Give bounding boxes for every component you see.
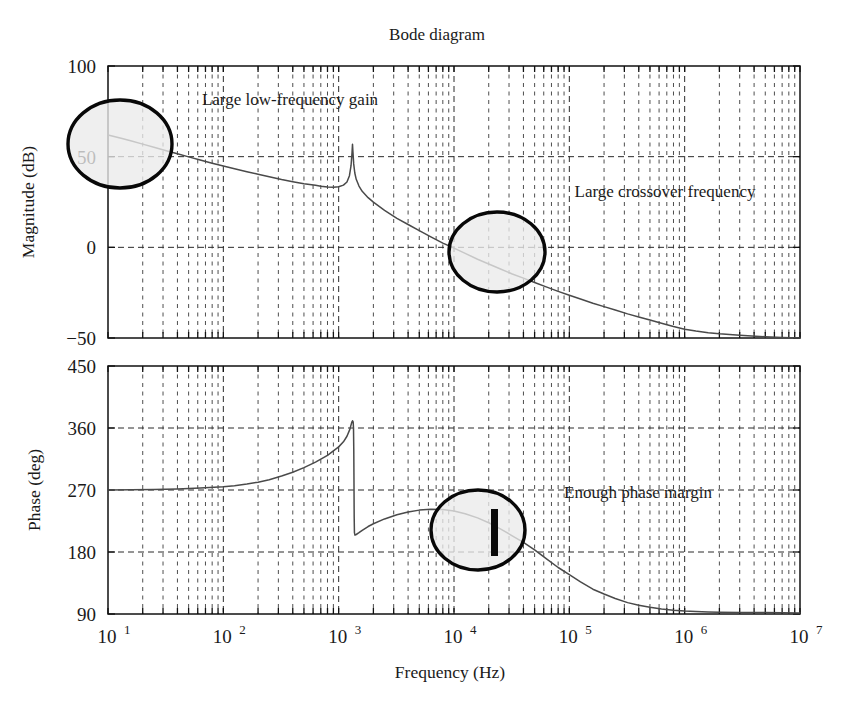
chart-title: Bode diagram [389,25,485,44]
frequency-tick-exponent: 1 [124,622,131,637]
bode-diagram-figure: Bode diagram −50050100 Magnitude (dB) La… [0,0,855,710]
phase-y-tick-180: 180 [68,542,97,563]
magnitude-y-tick-100: 100 [68,56,97,77]
phase-margin-bar [491,509,498,556]
large-low-frequency-gain: Large low-frequency gain [202,90,379,109]
phase-y-tick-90: 90 [77,604,96,625]
frequency-tick-base: 10 [98,626,117,647]
phase-y-tick-270: 270 [68,480,97,501]
large-crossover-frequency: Large crossover frequency [575,182,756,201]
frequency-tick-exponent: 6 [701,622,708,637]
phase-y-tick-450: 450 [68,356,97,377]
phase-annotations: Enough phase margin [564,483,712,502]
frequency-tick-exponent: 5 [585,622,592,637]
phase-axis-label: Phase (deg) [24,449,44,531]
magnitude-y-tick-0: 0 [87,237,97,258]
phase-margin-callout [431,490,525,570]
phase-y-tick-360: 360 [68,418,97,439]
frequency-tick-base: 10 [790,626,809,647]
crossover-frequency-callout [449,212,545,292]
frequency-tick-base: 10 [559,626,578,647]
frequency-tick-base: 10 [328,626,347,647]
frequency-tick-exponent: 2 [239,622,246,637]
bode-diagram-canvas: Bode diagram −50050100 Magnitude (dB) La… [0,0,855,710]
phase-callout-ellipses [431,490,525,570]
magnitude-axis-label: Magnitude (dB) [18,146,38,258]
frequency-axis-label: Frequency (Hz) [395,662,505,682]
enough-phase-margin: Enough phase margin [564,483,712,502]
low-frequency-gain-callout [68,100,172,188]
frequency-tick-base: 10 [674,626,693,647]
frequency-tick-exponent: 4 [470,622,477,637]
frequency-tick-base: 10 [444,626,463,647]
phase-margin-markers [491,509,498,556]
frequency-tick-base: 10 [213,626,232,647]
magnitude-y-tick--50: −50 [66,328,96,349]
frequency-tick-exponent: 7 [816,622,823,637]
frequency-tick-exponent: 3 [355,622,362,637]
